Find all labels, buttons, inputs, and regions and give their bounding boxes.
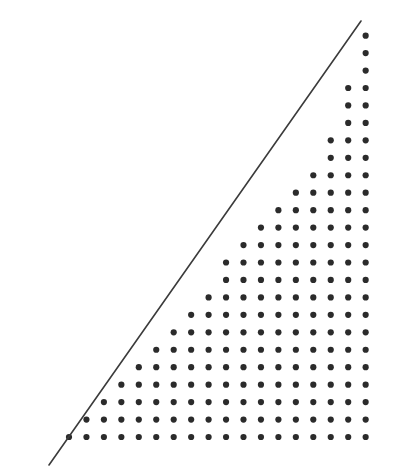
lattice-dot [223, 382, 229, 388]
lattice-dot [223, 312, 229, 318]
lattice-dot [345, 137, 351, 143]
lattice-dot [171, 416, 177, 422]
lattice-dot [293, 277, 299, 283]
lattice-dot [275, 399, 281, 405]
lattice-dot [293, 294, 299, 300]
lattice-dot [223, 434, 229, 440]
lattice-dot [258, 277, 264, 283]
lattice-dot [310, 399, 316, 405]
lattice-dot [101, 416, 107, 422]
lattice-dot [275, 382, 281, 388]
lattice-dot [171, 347, 177, 353]
lattice-dot [206, 312, 212, 318]
lattice-dot [275, 312, 281, 318]
lattice-dot [293, 312, 299, 318]
lattice-dot [206, 329, 212, 335]
lattice-dot [275, 364, 281, 370]
lattice-dot [363, 259, 369, 265]
lattice-dot [328, 277, 334, 283]
lattice-dot [293, 225, 299, 231]
lattice-dot [223, 277, 229, 283]
lattice-dot [293, 364, 299, 370]
lattice-dot [293, 347, 299, 353]
lattice-dot [363, 102, 369, 108]
lattice-dot [118, 399, 124, 405]
lattice-dot [328, 259, 334, 265]
lattice-dot [345, 190, 351, 196]
lattice-dot [328, 434, 334, 440]
lattice-dot [363, 364, 369, 370]
lattice-dot [310, 172, 316, 178]
lattice-dot [206, 434, 212, 440]
lattice-dot [345, 102, 351, 108]
lattice-dot [136, 382, 142, 388]
lattice-dot [363, 277, 369, 283]
lattice-dot [118, 416, 124, 422]
lattice-dot [345, 294, 351, 300]
lattice-dot [345, 225, 351, 231]
lattice-dot [240, 434, 246, 440]
lattice-dot [153, 399, 159, 405]
lattice-dot [310, 277, 316, 283]
lattice-dot [345, 85, 351, 91]
lattice-dot [328, 242, 334, 248]
lattice-dot [328, 382, 334, 388]
lattice-dot [258, 434, 264, 440]
lattice-dot [310, 190, 316, 196]
lattice-dot [206, 416, 212, 422]
lattice-dot [240, 277, 246, 283]
lattice-dot [310, 207, 316, 213]
lattice-dot [328, 399, 334, 405]
lattice-dot [328, 137, 334, 143]
lattice-dot [310, 329, 316, 335]
lattice-dot [188, 329, 194, 335]
lattice-dot [258, 294, 264, 300]
lattice-dot [223, 416, 229, 422]
lattice-dot [101, 434, 107, 440]
lattice-dot [223, 294, 229, 300]
lattice-dot [293, 207, 299, 213]
lattice-dot [275, 277, 281, 283]
lattice-dot [258, 347, 264, 353]
lattice-dot [258, 312, 264, 318]
scatter-plot-canvas [0, 0, 408, 468]
lattice-dot [240, 364, 246, 370]
lattice-dot [328, 364, 334, 370]
lattice-dot [293, 382, 299, 388]
lattice-dot [328, 329, 334, 335]
lattice-dot [345, 434, 351, 440]
lattice-dot [293, 242, 299, 248]
lattice-dot [345, 399, 351, 405]
lattice-dot [275, 207, 281, 213]
lattice-dot [328, 190, 334, 196]
lattice-dot [275, 294, 281, 300]
lattice-dot [240, 382, 246, 388]
lattice-dot [293, 399, 299, 405]
lattice-dot [171, 399, 177, 405]
lattice-dot [345, 382, 351, 388]
lattice-dot [363, 294, 369, 300]
lattice-dot [345, 155, 351, 161]
lattice-dot [240, 242, 246, 248]
lattice-dot [328, 312, 334, 318]
figure-container: Lattice points bounded by a line [0, 0, 408, 468]
lattice-dot [240, 259, 246, 265]
lattice-dot [345, 172, 351, 178]
lattice-dot [293, 259, 299, 265]
lattice-dot [345, 259, 351, 265]
lattice-dot [363, 50, 369, 56]
lattice-dot [136, 434, 142, 440]
lattice-dot [101, 399, 107, 405]
lattice-dot [328, 225, 334, 231]
lattice-dot [363, 416, 369, 422]
lattice-dot [83, 434, 89, 440]
lattice-dot [363, 155, 369, 161]
lattice-dot [310, 364, 316, 370]
lattice-dot [345, 312, 351, 318]
lattice-dot [188, 434, 194, 440]
lattice-dot [258, 242, 264, 248]
lattice-dot [83, 416, 89, 422]
lattice-dot [363, 434, 369, 440]
lattice-dot [223, 259, 229, 265]
lattice-dot [363, 382, 369, 388]
